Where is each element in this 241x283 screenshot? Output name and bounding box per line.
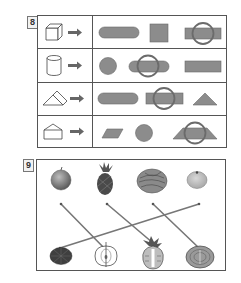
row-4-graphics <box>38 116 226 147</box>
line-orange-to-orange-section <box>60 204 199 248</box>
apple-cross-section-icon[interactable] <box>95 242 117 267</box>
table-row-pentagonal-prism <box>38 116 226 149</box>
orange-cross-section-icon[interactable] <box>50 248 72 265</box>
cabbage-cross-section-icon[interactable] <box>186 246 214 268</box>
option-rounded-rectangle[interactable] <box>99 27 139 38</box>
arrow-right-icon <box>70 95 84 103</box>
cylinder-icon <box>47 56 61 76</box>
triangular-prism-icon <box>43 91 67 105</box>
option-triangle[interactable] <box>193 93 217 105</box>
table-row-cube <box>38 16 226 49</box>
arrow-right-icon <box>68 29 82 37</box>
house-prism-icon <box>44 124 62 139</box>
option-trapezoid[interactable] <box>173 128 217 139</box>
connection-lines <box>60 204 199 250</box>
option-rectangle[interactable] <box>185 61 221 72</box>
table-row-triangular-prism <box>38 83 226 116</box>
cabbage-icon[interactable] <box>137 169 167 193</box>
cube-icon <box>46 24 62 40</box>
arrow-right-icon <box>68 62 82 70</box>
table-row-cylinder <box>38 49 226 82</box>
apple-icon[interactable] <box>51 167 71 190</box>
line-apple-to-apple-section <box>61 204 106 250</box>
row-2-graphics <box>38 49 226 82</box>
line-pineapple-to-pineapple-section <box>107 204 153 243</box>
shape-matching-table <box>37 15 227 148</box>
option-circle[interactable] <box>136 125 153 142</box>
option-circle[interactable] <box>100 58 117 75</box>
option-square[interactable] <box>150 24 168 42</box>
option-rounded-rectangle[interactable] <box>98 93 138 104</box>
pineapple-cross-section-icon[interactable] <box>143 236 164 269</box>
question-number-9: 9 <box>23 159 34 172</box>
option-rectangle[interactable] <box>146 93 183 104</box>
option-rounded-rectangle[interactable] <box>129 61 169 72</box>
fruit-matching-graphics <box>37 160 225 270</box>
orange-icon[interactable] <box>187 171 207 188</box>
arrow-right-icon <box>70 128 84 136</box>
pineapple-icon[interactable] <box>97 162 113 195</box>
fruit-matching-box <box>36 159 226 271</box>
option-rectangle[interactable] <box>185 28 221 39</box>
row-1-graphics <box>38 16 226 48</box>
option-parallelogram[interactable] <box>102 129 123 138</box>
row-3-graphics <box>38 83 226 115</box>
